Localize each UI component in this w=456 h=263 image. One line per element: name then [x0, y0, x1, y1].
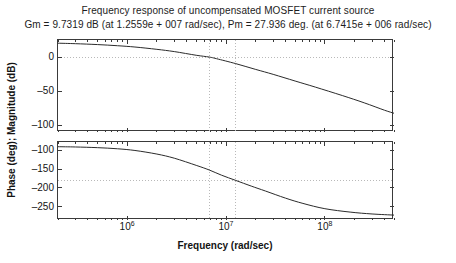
y-tick-label: –150 — [32, 164, 54, 174]
magnitude-plot-canvas — [57, 39, 395, 133]
figure-title-block: Frequency response of uncompensated MOSF… — [0, 4, 456, 32]
y-tick-label: 0 — [48, 52, 54, 62]
y-tick-label: –50 — [37, 86, 54, 96]
x-axis-label: Frequency (rad/sec) — [57, 240, 393, 251]
y-axis-label: Phase (deg); Magnitude (dB) — [6, 62, 17, 198]
y-tick-label: –200 — [32, 183, 54, 193]
y-axis-label-wrap: Phase (deg); Magnitude (dB) — [0, 39, 22, 220]
magnitude-axes: 0–50–100 — [57, 39, 393, 131]
figure-subtitle-margins: Gm = 9.7319 dB (at 1.2559e + 007 rad/sec… — [0, 18, 456, 32]
x-tick-label: 107 — [218, 221, 233, 232]
y-tick-label: –100 — [32, 145, 54, 155]
data-curve — [58, 43, 394, 113]
figure-title: Frequency response of uncompensated MOSF… — [0, 4, 456, 18]
bode-plot-figure: Frequency response of uncompensated MOSF… — [0, 0, 456, 263]
y-tick-label: –100 — [32, 120, 54, 130]
phase-axes: –100–150–200–250106107108 — [57, 141, 393, 219]
y-tick-label: –250 — [32, 202, 54, 212]
x-tick-label: 106 — [120, 221, 135, 232]
phase-plot-canvas — [57, 141, 395, 221]
x-tick-label: 108 — [317, 221, 332, 232]
